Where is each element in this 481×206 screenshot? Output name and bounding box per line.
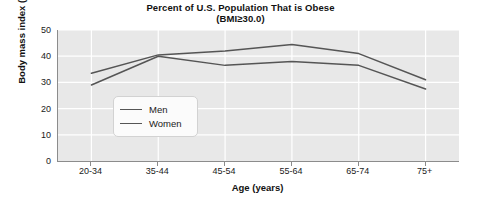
y-tick-label: 30 [24, 77, 51, 87]
legend-line-swatch-women [120, 123, 142, 124]
x-tick-label: 20-34 [79, 166, 102, 177]
legend-item-men: Men [120, 102, 191, 116]
legend-item-women: Women [120, 116, 191, 130]
y-tick-label: 50 [24, 25, 51, 35]
legend-label-men: Men [149, 104, 167, 115]
x-tick-mark [157, 161, 158, 166]
y-tick-label: 10 [24, 130, 51, 140]
chart-figure: Percent of U.S. Population That is Obese… [0, 0, 481, 206]
x-axis-title: Age (years) [57, 182, 458, 193]
x-tick-label: 55-64 [279, 166, 302, 177]
title-block: Percent of U.S. Population That is Obese… [0, 2, 481, 24]
legend-label-women: Women [149, 118, 182, 129]
x-axis-tick-labels: 20-3435-4445-5455-6465-7475+ [57, 166, 458, 180]
chart-title: Percent of U.S. Population That is Obese [0, 2, 481, 13]
series-line-men [91, 56, 425, 89]
chart-subtitle: (BMI≥30.0) [0, 13, 481, 24]
legend-line-swatch-men [120, 109, 142, 110]
x-tick-mark [224, 161, 225, 166]
y-tick-label: 20 [24, 104, 51, 114]
chart-legend: Men Women [113, 96, 198, 137]
x-tick-mark [90, 161, 91, 166]
y-tick-label: 40 [24, 51, 51, 61]
x-tick-mark [291, 161, 292, 166]
x-tick-mark [425, 161, 426, 166]
x-tick-label: 65-74 [346, 166, 369, 177]
x-tick-label: 45-54 [213, 166, 236, 177]
x-tick-label: 75+ [417, 166, 432, 177]
x-tick-mark [358, 161, 359, 166]
x-tick-label: 35-44 [146, 166, 169, 177]
series-line-women [91, 44, 425, 79]
y-tick-label: 0 [24, 156, 51, 166]
y-axis-tick-labels: 01020304050 [24, 24, 51, 167]
